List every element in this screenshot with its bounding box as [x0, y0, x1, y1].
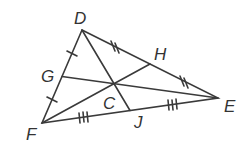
- label-J: J: [134, 114, 143, 131]
- tick-FJ-3: [87, 112, 88, 122]
- label-G: G: [41, 68, 54, 85]
- label-C: C: [103, 95, 115, 112]
- tick-FJ-1: [79, 113, 80, 123]
- label-E: E: [224, 98, 235, 115]
- label-F: F: [26, 126, 36, 143]
- tick-JE-2: [172, 100, 173, 110]
- triangle-diagram: D H G C E J F: [0, 0, 244, 143]
- tick-FJ-2: [83, 112, 84, 122]
- label-D: D: [74, 10, 86, 27]
- label-H: H: [154, 46, 166, 63]
- triangle-svg: [0, 0, 244, 143]
- tick-JE-1: [168, 100, 169, 110]
- tick-JE-3: [176, 99, 177, 109]
- median-E-G: [62, 77, 218, 99]
